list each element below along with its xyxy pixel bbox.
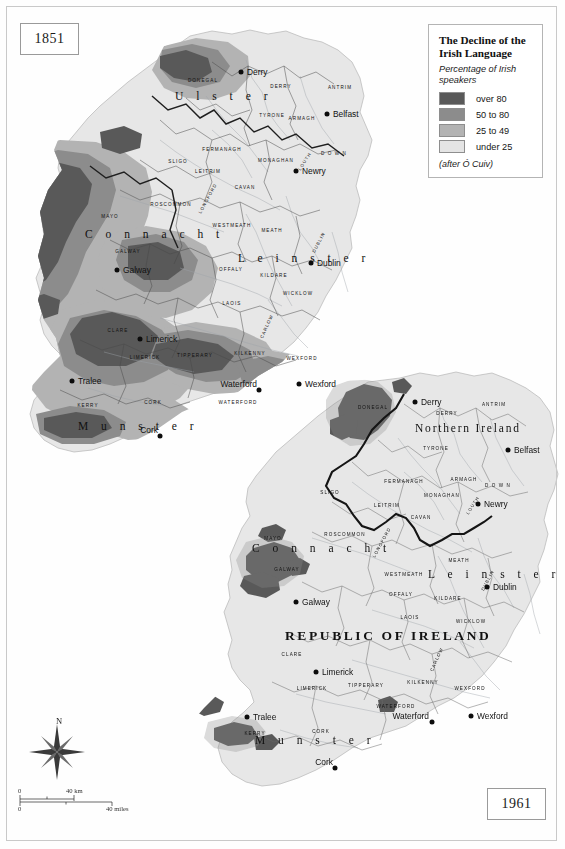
svg-text:WICKLOW: WICKLOW xyxy=(456,619,486,624)
city-label-derry-1961: Derry xyxy=(421,397,442,407)
city-dot-derry xyxy=(239,70,244,75)
city-label-limerick-1961: Limerick xyxy=(322,667,354,677)
province-label-connacht-1961: C o n n a c h t xyxy=(252,542,391,554)
city-label-derry: Derry xyxy=(247,67,268,77)
city-label-galway: Galway xyxy=(123,265,152,275)
legend-row-25-to-49: 25 to 49 xyxy=(439,124,533,137)
legend-label-25-to-49: 25 to 49 xyxy=(476,126,509,136)
svg-text:MAYO: MAYO xyxy=(101,214,119,219)
svg-text:CORK: CORK xyxy=(144,400,162,405)
map-page: U l s t e r C o n n a c h t L e i n s t … xyxy=(0,0,565,849)
city-label-wexford: Wexford xyxy=(305,379,336,389)
city-dot-wexford xyxy=(297,382,302,387)
svg-text:TYRONE: TYRONE xyxy=(423,446,449,451)
svg-text:D O W N: D O W N xyxy=(321,151,347,156)
scale-miles-zero: 0 xyxy=(18,805,21,812)
svg-text:LIMERICK: LIMERICK xyxy=(130,355,161,360)
city-dot-galway-1961 xyxy=(294,600,299,605)
svg-text:DONEGAL: DONEGAL xyxy=(188,78,218,83)
city-label-belfast: Belfast xyxy=(333,109,359,119)
city-label-waterford: Waterford xyxy=(221,379,258,389)
city-label-tralee: Tralee xyxy=(78,376,102,386)
legend-box: The Decline of the Irish Language Percen… xyxy=(428,24,543,178)
svg-text:ROSCOMMON: ROSCOMMON xyxy=(324,532,365,537)
svg-text:CLARE: CLARE xyxy=(108,328,129,333)
legend-source-note: (after Ó Cuiv) xyxy=(439,159,533,169)
city-dot-dublin xyxy=(309,261,314,266)
city-label-newry: Newry xyxy=(302,166,327,176)
legend-title: The Decline of the Irish Language xyxy=(439,34,533,60)
svg-text:MEATH: MEATH xyxy=(261,228,282,233)
svg-text:SLIGO: SLIGO xyxy=(320,490,340,495)
svg-text:ROSCOMMON: ROSCOMMON xyxy=(150,202,191,207)
compass-rose-group: N xyxy=(20,716,98,786)
city-dot-galway xyxy=(115,268,120,273)
city-dot-limerick xyxy=(138,337,143,342)
svg-text:TYRONE: TYRONE xyxy=(259,113,285,118)
svg-text:CORK: CORK xyxy=(312,729,330,734)
svg-text:GALWAY: GALWAY xyxy=(115,249,140,254)
svg-text:KILDARE: KILDARE xyxy=(260,273,287,278)
svg-text:LEITRIM: LEITRIM xyxy=(374,503,400,508)
svg-text:ANTRIM: ANTRIM xyxy=(482,402,506,407)
province-label-leinster: L e i n s t e r xyxy=(238,252,370,264)
city-label-dublin-1961: Dublin xyxy=(493,582,517,592)
city-label-cork-1961: Cork xyxy=(315,757,333,767)
svg-text:WESTMEATH: WESTMEATH xyxy=(213,223,252,228)
svg-text:LAOIS: LAOIS xyxy=(400,615,419,620)
city-dot-belfast-1961 xyxy=(506,448,511,453)
svg-text:D O W N: D O W N xyxy=(485,483,511,488)
scale-miles-max: 40 miles xyxy=(106,805,129,812)
svg-text:WEXFORD: WEXFORD xyxy=(454,686,485,691)
province-label-ulster: U l s t e r xyxy=(175,90,272,102)
scale-km-max: 40 km xyxy=(66,787,83,794)
legend-swatch-over-80 xyxy=(439,92,465,105)
legend-swatch-25-to-49 xyxy=(439,124,465,137)
city-dot-limerick-1961 xyxy=(314,670,319,675)
legend-swatch-under-25 xyxy=(439,140,465,153)
svg-text:LAOIS: LAOIS xyxy=(222,301,241,306)
province-label-connacht: C o n n a c h t xyxy=(85,228,224,240)
svg-text:DONEGAL: DONEGAL xyxy=(358,405,388,410)
legend-row-over-80: over 80 xyxy=(439,92,533,105)
svg-text:OFFALY: OFFALY xyxy=(389,592,413,597)
svg-text:GALWAY: GALWAY xyxy=(274,567,299,572)
province-label-munster: M u n s t e r xyxy=(78,420,199,432)
svg-text:CAVAN: CAVAN xyxy=(235,185,256,190)
svg-text:KERRY: KERRY xyxy=(244,731,265,736)
svg-text:MEATH: MEATH xyxy=(448,558,469,563)
scale-bar: 0 40 km 0 40 miles xyxy=(18,786,128,820)
svg-text:FERMANAGH: FERMANAGH xyxy=(202,147,241,152)
svg-text:MONAGHAN: MONAGHAN xyxy=(424,493,460,498)
svg-text:WEXFORD: WEXFORD xyxy=(286,356,317,361)
svg-text:KILDARE: KILDARE xyxy=(434,596,461,601)
city-label-wexford-1961: Wexford xyxy=(477,711,508,721)
city-label-limerick: Limerick xyxy=(146,334,178,344)
svg-text:KILKENNY: KILKENNY xyxy=(234,351,266,356)
legend-row-50-to-80: 50 to 80 xyxy=(439,108,533,121)
svg-text:LIMERICK: LIMERICK xyxy=(297,686,328,691)
city-dot-belfast xyxy=(325,112,330,117)
compass-north-label: N xyxy=(20,716,98,726)
province-label-leinster-1961: L e i n s t e r xyxy=(428,568,560,580)
svg-text:LEITRIM: LEITRIM xyxy=(195,169,221,174)
state-label-republic-of-ireland: REPUBLIC OF IRELAND xyxy=(285,628,491,643)
svg-text:MAYO: MAYO xyxy=(264,536,282,541)
map-1851: U l s t e r C o n n a c h t L e i n s t … xyxy=(18,30,372,452)
svg-text:WESTMEATH: WESTMEATH xyxy=(385,572,424,577)
city-label-belfast-1961: Belfast xyxy=(514,445,540,455)
legend-label-50-to-80: 50 to 80 xyxy=(476,110,509,120)
city-label-cork: Cork xyxy=(140,425,158,435)
legend-label-over-80: over 80 xyxy=(476,94,507,104)
legend-row-under-25: under 25 xyxy=(439,140,533,153)
svg-text:ARMAGH: ARMAGH xyxy=(289,116,316,121)
scale-km-zero: 0 xyxy=(18,787,21,794)
city-label-tralee-1961: Tralee xyxy=(253,712,277,722)
svg-text:CLARE: CLARE xyxy=(282,652,303,657)
city-dot-tralee xyxy=(70,379,75,384)
legend-label-under-25: under 25 xyxy=(476,142,512,152)
city-dot-newry-1961 xyxy=(476,502,481,507)
city-dot-dublin-1961 xyxy=(485,585,490,590)
svg-text:SLIGO: SLIGO xyxy=(168,159,188,164)
svg-text:WATERFORD: WATERFORD xyxy=(219,400,258,405)
